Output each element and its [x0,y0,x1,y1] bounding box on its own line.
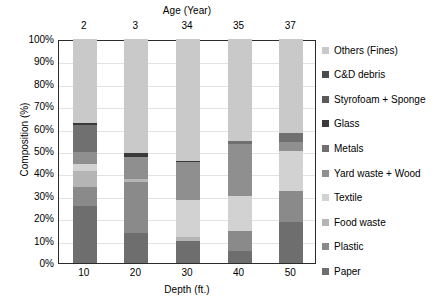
bar-segment [124,182,148,232]
legend-item[interactable]: Textile [322,192,362,204]
y-axis-tick-label: 30% [8,192,54,202]
legend-swatch-icon [322,194,329,201]
x-axis-tick-label: 40 [213,267,265,278]
plot-area [58,40,316,264]
legend-item-label: Styrofoam + Sponge [334,94,425,105]
legend-item[interactable]: Metals [322,142,363,154]
legend-item-label: Glass [334,118,360,129]
y-axis-tick-label: 80% [8,80,54,90]
y-axis-tick-label: 10% [8,237,54,247]
bar-segment [73,206,97,263]
y-axis-tick-label: 90% [8,57,54,67]
top-axis-tick-label: 34 [161,20,213,31]
bar-segment [228,144,252,196]
bar-segment [176,237,200,240]
x-axis-tick-label: 30 [161,267,213,278]
bar-segment [176,200,200,237]
top-axis-title: Age (Year) [58,5,316,16]
top-axis-tick-label: 35 [213,20,265,31]
bar-segment [73,171,97,187]
bar-segment [124,157,148,179]
bar-segment [73,164,97,171]
legend-item[interactable]: Paper [322,265,361,277]
y-axis-tick-label: 60% [8,125,54,135]
top-axis-tick-label: 37 [264,20,316,31]
bar-segment [73,125,97,152]
bar-segment [176,39,200,161]
legend-item[interactable]: C&D debris [322,69,385,81]
legend-item-label: C&D debris [334,69,385,80]
legend-swatch-icon [322,219,329,226]
bar-segment [228,141,252,144]
bar-segment [176,161,200,162]
legend-swatch-icon [322,120,329,127]
legend-swatch-icon [322,268,329,275]
legend-item[interactable]: Styrofoam + Sponge [322,93,425,105]
bar-segment [279,142,303,151]
bar-segment [228,251,252,263]
bar-segment [279,39,303,133]
bar-segment [176,162,200,200]
y-axis-ticks: 0%10%20%30%40%50%60%70%80%90%100% [6,40,54,264]
x-axis-tick-label: 20 [109,267,161,278]
bar-segment [73,187,97,206]
y-axis-tick-label: 20% [8,214,54,224]
legend-item-label: Yard waste + Wood [334,168,421,179]
legend-swatch-icon [322,47,329,54]
legend-item-label: Paper [334,266,361,277]
y-axis-tick-label: 40% [8,169,54,179]
top-axis-tick-label: 3 [109,20,161,31]
chart-legend: Others (Fines)C&D debrisStyrofoam + Spon… [322,40,440,266]
bar-segment [228,39,252,141]
legend-swatch-icon [322,170,329,177]
legend-item-label: Others (Fines) [334,45,398,56]
legend-swatch-icon [322,96,329,103]
x-axis-title: Depth (ft.) [58,284,316,295]
bar-segment [279,133,303,142]
bar-segment [279,222,303,263]
y-axis-tick-label: 70% [8,102,54,112]
top-axis-tick-label: 2 [58,20,110,31]
bar-segment [176,241,200,263]
legend-item[interactable]: Plastic [322,241,363,253]
x-axis-tick-label: 50 [264,267,316,278]
bar-segment [228,231,252,251]
bar-segment [279,191,303,221]
legend-item[interactable]: Yard waste + Wood [322,167,421,179]
bar-segment [228,196,252,231]
legend-item[interactable]: Food waste [322,216,386,228]
x-axis-tick-label: 10 [58,267,110,278]
legend-item-label: Textile [334,192,362,203]
legend-item-label: Metals [334,143,363,154]
bar-segment [124,179,148,182]
bar-segment [73,39,97,123]
bar-segment [124,153,148,156]
legend-swatch-icon [322,243,329,250]
stacked-bar-chart: Age (Year) Composition (%) 0%10%20%30%40… [0,0,442,303]
legend-item-label: Plastic [334,241,363,252]
y-axis-tick-label: 100% [8,35,54,45]
legend-swatch-icon [322,71,329,78]
y-axis-tick-label: 0% [8,259,54,269]
y-axis-tick-label: 50% [8,147,54,157]
bar-column [176,39,200,263]
bar-column [228,39,252,263]
legend-item-label: Food waste [334,217,386,228]
bar-segment [279,151,303,191]
bar-segment [124,233,148,263]
bar-column [73,39,97,263]
bar-segment [73,123,97,125]
bar-column [124,39,148,263]
legend-swatch-icon [322,145,329,152]
legend-item[interactable]: Others (Fines) [322,44,398,56]
bar-segment [124,39,148,153]
bar-column [279,39,303,263]
bar-segment [73,152,97,164]
legend-item[interactable]: Glass [322,118,360,130]
